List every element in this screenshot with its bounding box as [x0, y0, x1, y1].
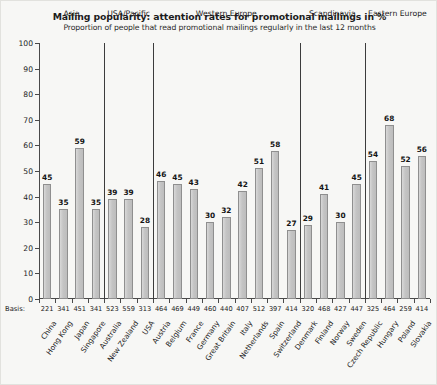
y-axis-tick — [35, 145, 39, 146]
y-axis-tick — [35, 120, 39, 121]
y-axis-tick — [35, 222, 39, 223]
bar-value-label: 45 — [172, 173, 182, 182]
bar-value-label: 42 — [237, 180, 247, 189]
basis-value: 325 — [367, 305, 380, 313]
bar-value-label: 54 — [368, 150, 378, 159]
basis-value: 464 — [155, 305, 168, 313]
bar — [418, 156, 426, 299]
bar-value-label: 32 — [221, 206, 231, 215]
bar-value-label: 45 — [42, 173, 52, 182]
basis-value: 397 — [269, 305, 282, 313]
basis-value: 320 — [302, 305, 315, 313]
x-axis-tick — [218, 299, 219, 303]
basis-value: 313 — [139, 305, 152, 313]
bar — [238, 191, 246, 299]
y-axis-tick-label: 80 — [23, 90, 33, 99]
y-axis-tick-label: 70 — [23, 115, 33, 124]
x-axis-tick — [365, 299, 366, 303]
bar — [206, 222, 214, 299]
basis-value: 341 — [57, 305, 70, 313]
y-axis-tick-label: 60 — [23, 141, 33, 150]
basis-value: 414 — [285, 305, 298, 313]
x-axis-tick — [267, 299, 268, 303]
bar — [173, 184, 181, 299]
x-axis-tick — [235, 299, 236, 303]
bar — [190, 189, 198, 299]
chart-container: Mailing popularity: attention rates for … — [0, 0, 437, 385]
x-axis-tick — [88, 299, 89, 303]
bar-value-label: 41 — [319, 183, 329, 192]
bar-value-label: 58 — [270, 140, 280, 149]
bar-value-label: 43 — [189, 178, 199, 187]
bar — [255, 168, 263, 299]
bar — [59, 209, 67, 299]
bar — [43, 184, 51, 299]
x-axis-tick — [72, 299, 73, 303]
bar-value-label: 45 — [352, 173, 362, 182]
bar — [304, 225, 312, 299]
bar-value-label: 30 — [205, 211, 215, 220]
y-axis-tick-label: 30 — [23, 218, 33, 227]
region-label-eastern-europe: Eastern Europe — [368, 9, 427, 18]
bar — [92, 209, 100, 299]
bar — [157, 181, 165, 299]
bar — [141, 227, 149, 299]
basis-value: 523 — [106, 305, 119, 313]
basis-value: 447 — [350, 305, 363, 313]
basis-value: 407 — [236, 305, 249, 313]
bar — [287, 230, 295, 299]
x-axis-tick — [120, 299, 121, 303]
bar — [385, 125, 393, 299]
basis-value: 464 — [383, 305, 396, 313]
bar-value-label: 56 — [417, 145, 427, 154]
plot-area: 0102030405060708090100 AsiaUSA/PacificWe… — [39, 43, 430, 299]
bar-value-label: 46 — [156, 170, 166, 179]
bar — [352, 184, 360, 299]
region-divider — [104, 43, 105, 299]
x-axis-tick — [349, 299, 350, 303]
basis-value: 460 — [204, 305, 217, 313]
bar — [222, 217, 230, 299]
y-axis-tick — [35, 94, 39, 95]
y-axis-line — [39, 43, 40, 299]
y-axis-tick — [35, 273, 39, 274]
basis-value: 341 — [90, 305, 103, 313]
x-axis-tick — [283, 299, 284, 303]
y-axis-tick — [35, 171, 39, 172]
y-axis-tick-label: 40 — [23, 192, 33, 201]
region-divider — [365, 43, 366, 299]
x-axis-tick — [414, 299, 415, 303]
bar-value-label: 30 — [335, 211, 345, 220]
x-axis-tick — [300, 299, 301, 303]
bar — [108, 199, 116, 299]
y-axis-tick-label: 20 — [23, 243, 33, 252]
bar — [75, 148, 83, 299]
region-label-scandinavia: Scandinavia — [309, 9, 356, 18]
bar-value-label: 59 — [75, 137, 85, 146]
basis-value: 414 — [416, 305, 429, 313]
region-label-western-europe: Western Europe — [196, 9, 257, 18]
x-axis-tick — [316, 299, 317, 303]
bar-value-label: 35 — [58, 198, 68, 207]
bar-value-label: 29 — [303, 214, 313, 223]
bar-value-label: 28 — [140, 216, 150, 225]
region-divider — [300, 43, 301, 299]
bar — [320, 194, 328, 299]
region-label-usa-pacific: USA/Pacific — [107, 9, 150, 18]
x-axis-tick — [332, 299, 333, 303]
x-axis-tick — [137, 299, 138, 303]
basis-value: 221 — [41, 305, 54, 313]
bar — [401, 166, 409, 299]
x-axis-tick — [169, 299, 170, 303]
bar — [369, 161, 377, 299]
basis-value: 468 — [318, 305, 331, 313]
x-axis-tick — [202, 299, 203, 303]
basis-value: 449 — [187, 305, 200, 313]
basis-value: 440 — [220, 305, 233, 313]
chart-subtitle: Proportion of people that read promotion… — [1, 23, 437, 32]
bar — [124, 199, 132, 299]
x-axis-tick — [55, 299, 56, 303]
basis-caption: Basis: — [5, 305, 25, 313]
region-divider — [153, 43, 154, 299]
bar — [271, 151, 279, 299]
